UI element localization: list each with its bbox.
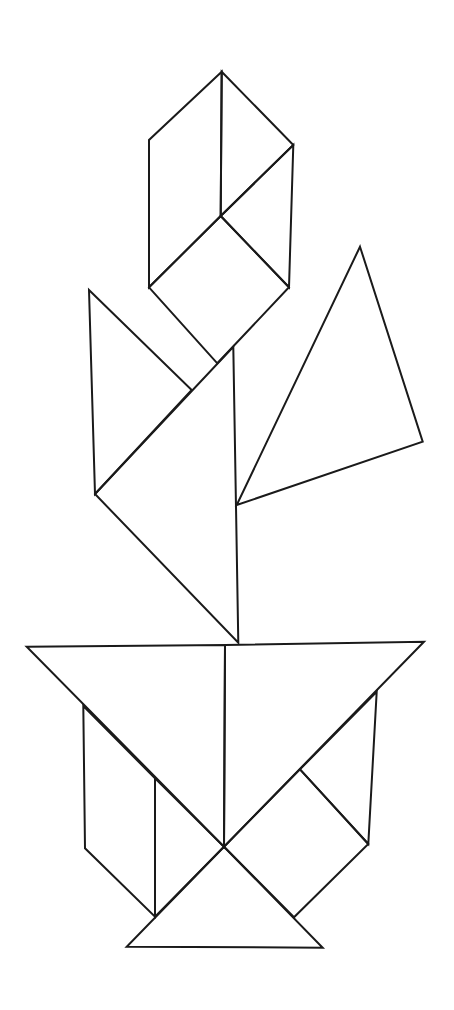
- pot-left-parallelogram: [83, 706, 155, 917]
- pot-base-triangle: [127, 847, 323, 948]
- pot-left-small-triangle: [155, 778, 224, 916]
- stem-big-triangle: [95, 347, 238, 643]
- tangram-shapes: [27, 72, 424, 948]
- flower-right-parallelogram: [221, 145, 294, 287]
- leaf-left-triangle: [89, 290, 192, 494]
- leaf-right-triangle: [237, 247, 423, 505]
- tangram-canvas: Tangram figure: flower in a pot: [0, 0, 454, 1010]
- pot-rim-left-triangle: [27, 645, 225, 847]
- pot-right-square: [224, 769, 368, 917]
- flower-square: [149, 216, 289, 363]
- pot-right-small-triangle: [300, 692, 377, 844]
- tangram-figure: Tangram figure: flower in a pot: [0, 0, 454, 1010]
- flower-top-left-rhombus: [149, 72, 222, 288]
- flower-top-right-rhombus: [221, 72, 294, 216]
